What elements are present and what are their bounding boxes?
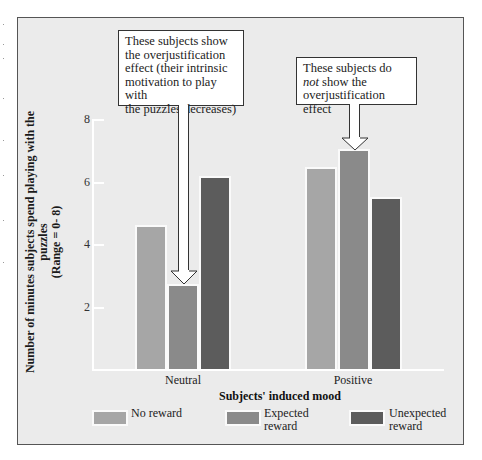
callout-left-arrow-shaft [178, 105, 189, 273]
scan-artifact [3, 24, 4, 25]
callout-overjustification-shown: These subjects show the overjustificatio… [118, 30, 244, 106]
x-axis-title: Subjects' induced mood [180, 389, 380, 404]
y-tick-4 [92, 244, 104, 246]
bar-neutral-expected-reward [167, 284, 199, 369]
y-tick-8 [92, 119, 104, 121]
legend-label-unexpected-reward: Unexpected reward [389, 407, 446, 433]
y-axis-title: Number of minutes subjects spend playing… [26, 92, 60, 392]
category-label-neutral: Neutral [143, 373, 223, 388]
scan-artifact [3, 262, 4, 263]
callout-left-line: motivation to play with [125, 75, 217, 103]
bar-positive-expected-reward [338, 149, 370, 369]
callout-right-italic-not: not [303, 75, 319, 89]
bar-neutral-no-reward [135, 225, 167, 369]
legend-label-no-reward: No reward [131, 407, 182, 420]
callout-right-line: These subjects do [303, 61, 392, 75]
scan-artifact [3, 98, 4, 99]
y-tick-6 [92, 182, 104, 184]
legend-label-unexpected-line1: Unexpected [389, 406, 446, 420]
y-tick-label-8: 8 [80, 112, 90, 127]
legend-label-expected-reward: Expected reward [264, 407, 309, 433]
y-axis-title-text: Number of minutes subjects spend playing… [24, 92, 50, 392]
y-tick-label-4: 4 [80, 237, 90, 252]
y-tick-label-6: 6 [80, 175, 90, 190]
legend-swatch-unexpected-reward [349, 410, 385, 426]
arrow-down-icon [341, 138, 369, 151]
legend-label-no-reward-text: No reward [131, 406, 182, 420]
callout-right-arrow-shaft [349, 104, 360, 140]
callout-left-line: the overjustification [125, 48, 225, 62]
y-axis-range-text: (Range = 0- 8) [50, 92, 63, 392]
y-tick-2 [92, 307, 104, 309]
legend-label-expected-line1: Expected [264, 406, 309, 420]
legend-label-unexpected-line2: reward [389, 419, 422, 433]
scan-artifact [3, 220, 4, 221]
callout-overjustification-not-shown: These subjects do not show the overjusti… [296, 57, 417, 105]
callout-right-line: show the [319, 75, 367, 89]
x-axis-line [92, 369, 444, 371]
legend-swatch-no-reward [92, 410, 128, 426]
scan-artifact [3, 140, 4, 141]
legend-label-expected-line2: reward [264, 419, 297, 433]
legend-swatch-expected-reward [225, 410, 261, 426]
callout-left-line: These subjects show [125, 34, 228, 48]
y-tick-label-2: 2 [80, 300, 90, 315]
category-label-positive: Positive [313, 373, 393, 388]
bar-positive-no-reward [305, 167, 337, 369]
bar-positive-unexpected-reward [370, 197, 402, 369]
callout-left-line: effect (their intrinsic [125, 61, 228, 75]
arrow-down-icon [170, 271, 198, 285]
scan-artifact [3, 44, 4, 45]
scan-artifact [3, 175, 4, 176]
scan-artifact [3, 58, 4, 59]
bar-neutral-unexpected-reward [199, 176, 231, 369]
